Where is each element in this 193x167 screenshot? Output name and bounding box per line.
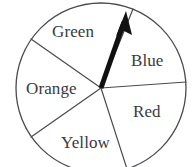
sector-label-red: Red — [133, 103, 161, 120]
spinner-figure: Green Blue Red Yellow Orange — [0, 0, 193, 167]
sector-label-green: Green — [52, 23, 94, 40]
sector-label-yellow: Yellow — [61, 134, 110, 151]
sector-label-orange: Orange — [26, 80, 77, 97]
sector-label-blue: Blue — [131, 52, 164, 69]
